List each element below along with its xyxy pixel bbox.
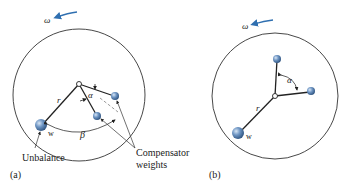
- pivot-a: [77, 82, 82, 87]
- arm-comp2-b: [275, 92, 310, 96]
- arm-r-a: [43, 84, 79, 124]
- compensator-weight-1-a: [111, 92, 119, 100]
- figure-a: ω α r β w Unbalance Compensator weights …: [10, 12, 190, 181]
- panel-label-a: (a): [10, 169, 21, 181]
- alpha-label-b: α: [287, 75, 292, 85]
- rotor-disk-a: [13, 29, 145, 161]
- compensator-weight-2-a: [93, 112, 101, 120]
- unbalance-weight-a: [35, 119, 47, 131]
- panel-label-b: (b): [209, 169, 221, 181]
- unbalance-label: Unbalance: [22, 152, 65, 163]
- rotation-arrow-icon: [254, 20, 273, 24]
- compensator-leader-2-a: [101, 119, 135, 148]
- w-label-b: w: [246, 132, 252, 141]
- compensator-label-line1: Compensator: [136, 147, 190, 158]
- unbalance-leader-a: [35, 132, 40, 148]
- w-label-a: w: [48, 129, 54, 138]
- beta-label-a: β: [79, 129, 85, 140]
- omega-label-a: ω: [44, 15, 50, 25]
- r-label-b: r: [256, 103, 260, 113]
- compensator-weight-1-b: [273, 55, 281, 63]
- alpha-tick2-a: [80, 99, 86, 101]
- diagram-canvas: ω α r β w Unbalance Compensator weights …: [0, 0, 351, 188]
- bisector-dashed-a: [100, 98, 118, 112]
- compensator-label-line2: weights: [136, 159, 167, 170]
- pivot-b: [273, 94, 278, 99]
- unbalance-weight-b: [232, 127, 244, 139]
- r-label-a: r: [57, 95, 61, 105]
- arm-r-b: [240, 96, 275, 132]
- figure-b: ω α r w (b): [209, 20, 338, 181]
- rotation-arrow-icon: [57, 12, 77, 17]
- alpha-label-a: α: [88, 90, 93, 100]
- compensator-weight-2-b: [307, 87, 315, 95]
- arm-comp1-b: [275, 60, 277, 96]
- omega-label-b: ω: [242, 21, 248, 31]
